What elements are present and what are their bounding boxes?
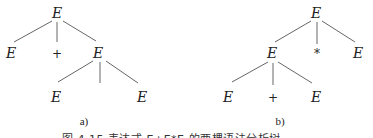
tree-a-grandchild-right-node: E	[137, 90, 147, 104]
tree-a-right-child-node: E	[93, 46, 103, 60]
figure-caption: 图 4.15 表达式 E+E*E 的两棵语法分析树	[62, 130, 281, 138]
tree-a-grandchild-left-node: E	[51, 90, 61, 104]
tree-b-plus-operator: +	[268, 92, 278, 104]
tree-b-left-child-node: E	[267, 46, 277, 60]
tree-b-right-child-node: E	[353, 46, 363, 60]
tree-a-plus-operator: +	[52, 48, 62, 60]
tree-b-times-operator: *	[314, 48, 320, 60]
tree-a-label: a)	[80, 115, 89, 127]
tree-b-grandchild-left-node: E	[223, 90, 233, 104]
tree-a-left-child-node: E	[6, 46, 16, 60]
tree-a-root-node: E	[52, 6, 62, 20]
parse-tree-figure: E E + E E E a) E E * E E + E b) 图 4.15 表…	[0, 0, 373, 138]
tree-b-label: b)	[275, 115, 284, 127]
tree-b-grandchild-right-node: E	[311, 90, 321, 104]
tree-b-root-node: E	[311, 6, 321, 20]
